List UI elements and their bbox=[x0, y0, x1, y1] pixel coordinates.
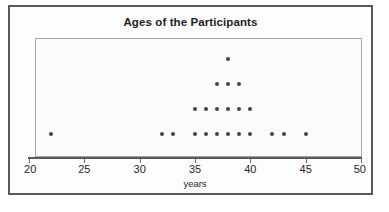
x-axis-tick-label: 50 bbox=[354, 163, 366, 175]
plot-area bbox=[35, 38, 362, 157]
dot-plot-figure: Ages of the Participants 20253035404550 … bbox=[0, 0, 389, 212]
x-axis-tick-label: 30 bbox=[134, 163, 146, 175]
chart-title: Ages of the Participants bbox=[8, 16, 373, 28]
x-axis-tick-label: 25 bbox=[78, 163, 90, 175]
x-axis-tick-label: 20 bbox=[24, 163, 36, 175]
x-axis-tick-label: 40 bbox=[244, 163, 256, 175]
x-axis-title: years bbox=[28, 178, 362, 189]
x-axis-tick-label: 35 bbox=[189, 163, 201, 175]
x-axis-tick-label: 45 bbox=[300, 163, 312, 175]
